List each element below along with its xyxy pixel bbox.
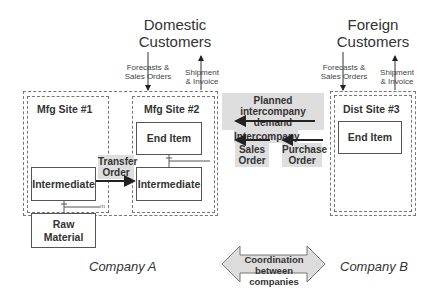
bom-marker-1: m	[100, 203, 105, 209]
coordination-label: Coordination between companies	[232, 254, 316, 287]
connector-arrows	[0, 0, 432, 298]
